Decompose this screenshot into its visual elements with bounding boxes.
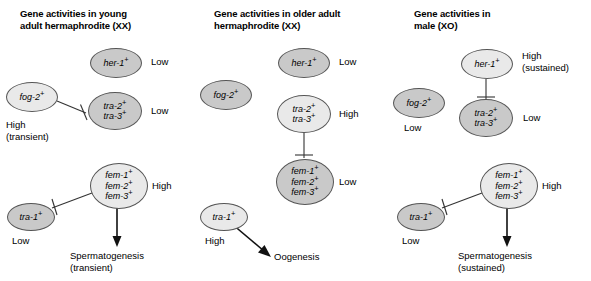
level-fog-2: Low [404, 122, 421, 134]
level-fem: High [152, 180, 172, 192]
panel-young-adult-hermaphrodite: Gene activities in young adult hermaphro… [0, 0, 196, 281]
gene-label: tra-1+ [20, 212, 43, 223]
level-tra-1: Low [402, 235, 419, 247]
edge-tra1-activates-oogenesis [232, 224, 271, 257]
gene-label: tra-3+ [104, 111, 127, 122]
gene-label: her-1+ [474, 59, 499, 70]
edge-fem-activates-spermatogenesis [113, 207, 122, 247]
panel-edges [392, 0, 591, 281]
node-tra-1[interactable]: tra-1+ [200, 203, 248, 231]
gene-label: fem-3+ [291, 187, 318, 198]
pathway-figure: Gene activities in young adult hermaphro… [0, 0, 591, 281]
edge-her1-inhibits-tra23 [477, 79, 495, 100]
level-tra-1: Low [12, 235, 29, 247]
level-tra-2-tra-3: Low [523, 112, 540, 124]
gene-label: fem-3+ [495, 191, 522, 202]
level-her-1: Low [151, 56, 168, 68]
node-her-1[interactable]: her-1+ [278, 48, 330, 78]
level-tra-2-tra-3: Low [151, 105, 168, 117]
node-fem-1-fem-2-fem-3[interactable]: fem-1+ fem-2+ fem-3+ [480, 163, 538, 209]
gene-label: fog-2+ [214, 90, 239, 101]
level-her-1: High (sustained) [522, 50, 569, 73]
node-tra-1[interactable]: tra-1+ [7, 203, 55, 231]
gene-label: her-1+ [103, 58, 128, 69]
level-fem: Low [339, 176, 356, 188]
level-her-1: Low [339, 56, 356, 68]
panel-older-adult-hermaphrodite: Gene activities in older adult hermaphro… [196, 0, 392, 281]
gene-label: tra-1+ [213, 212, 236, 223]
edge-tra23-inhibits-fem [295, 131, 313, 158]
panel-edges [196, 0, 392, 281]
edge-fog2-inhibits-tra23 [57, 101, 87, 120]
node-tra-2-tra-3[interactable]: tra-2+ tra-3+ [88, 92, 142, 130]
level-fem: High [542, 180, 562, 192]
node-tra-2-tra-3[interactable]: tra-2+ tra-3+ [459, 99, 513, 137]
gene-label: tra-3+ [293, 114, 316, 125]
node-her-1[interactable]: her-1+ [461, 49, 513, 79]
node-fog-2[interactable]: fog-2+ [200, 80, 252, 110]
node-fem-1-fem-2-fem-3[interactable]: fem-1+ fem-2+ fem-3+ [276, 159, 334, 205]
level-tra-2-tra-3: High [339, 108, 359, 120]
node-fog-2[interactable]: fog-2+ [393, 88, 445, 118]
gene-label: fog-2+ [20, 92, 45, 103]
level-fog-2: High (transient) [6, 119, 49, 142]
node-tra-1[interactable]: tra-1+ [397, 203, 445, 231]
node-her-1[interactable]: her-1+ [90, 48, 142, 78]
node-fog-2[interactable]: fog-2+ [6, 82, 58, 112]
outcome-oogenesis: Oogenesis [274, 251, 319, 263]
gene-label: tra-1+ [410, 212, 433, 223]
edge-fem-activates-spermatogenesis [503, 207, 512, 247]
node-tra-2-tra-3[interactable]: tra-2+ tra-3+ [277, 95, 331, 133]
gene-label: fem-3+ [105, 191, 132, 202]
outcome-spermatogenesis: Spermatogenesis (sustained) [458, 250, 532, 273]
level-tra-1: High [205, 235, 225, 247]
node-fem-1-fem-2-fem-3[interactable]: fem-1+ fem-2+ fem-3+ [90, 163, 148, 209]
outcome-spermatogenesis: Spermatogenesis (transient) [70, 250, 144, 273]
gene-label: her-1+ [291, 58, 316, 69]
gene-label: fog-2+ [407, 98, 432, 109]
gene-label: tra-3+ [475, 118, 498, 129]
panel-male: Gene activities in male (XO) her-1+ High… [392, 0, 591, 281]
